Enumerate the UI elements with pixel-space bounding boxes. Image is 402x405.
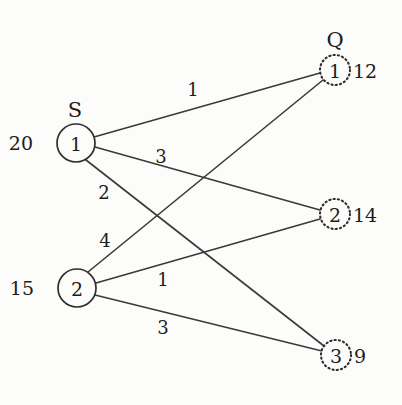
- supply-nodes-group: 1 20 2 15: [9, 124, 96, 307]
- node-q1-demand-value: 12: [353, 60, 377, 82]
- edge-weight-s1-q3: 2: [98, 182, 109, 203]
- edge-s1-q3: [86, 160, 324, 346]
- edge-s2-q1: [88, 80, 323, 272]
- node-q2-demand-value: 14: [353, 204, 377, 226]
- diagram-canvas: 1 3 2 4 1 3 1 20 2 15 1 12 2 14 3 9: [0, 0, 402, 405]
- edge-weight-s2-q2: 1: [157, 269, 168, 290]
- group-label-q: Q: [326, 28, 343, 52]
- edge-s1-q2: [95, 147, 320, 210]
- edge-weight-s1-q2: 3: [155, 146, 166, 167]
- node-s1-supply-value: 20: [9, 132, 33, 154]
- bipartite-graph: 1 3 2 4 1 3 1 20 2 15 1 12 2 14 3 9: [0, 0, 402, 405]
- node-q3-label: 3: [330, 345, 342, 367]
- node-q2-label: 2: [329, 204, 341, 226]
- demand-nodes-group: 1 12 2 14 3 9: [320, 55, 377, 370]
- node-s1-label: 1: [70, 133, 82, 155]
- edge-s1-q1: [94, 73, 320, 137]
- edge-s2-q3: [95, 295, 322, 351]
- edge-s2-q2: [96, 219, 320, 283]
- node-s2-supply-value: 15: [10, 277, 34, 299]
- node-s2-label: 2: [71, 278, 83, 300]
- edge-weight-s2-q3: 3: [157, 317, 168, 338]
- edge-weight-s2-q1: 4: [99, 230, 110, 251]
- group-labels: S Q: [68, 28, 344, 122]
- edges-group: [86, 73, 324, 351]
- group-label-s: S: [68, 98, 82, 122]
- node-q1-label: 1: [329, 60, 341, 82]
- node-q3-demand-value: 9: [354, 345, 366, 367]
- edge-weight-s1-q1: 1: [187, 79, 198, 100]
